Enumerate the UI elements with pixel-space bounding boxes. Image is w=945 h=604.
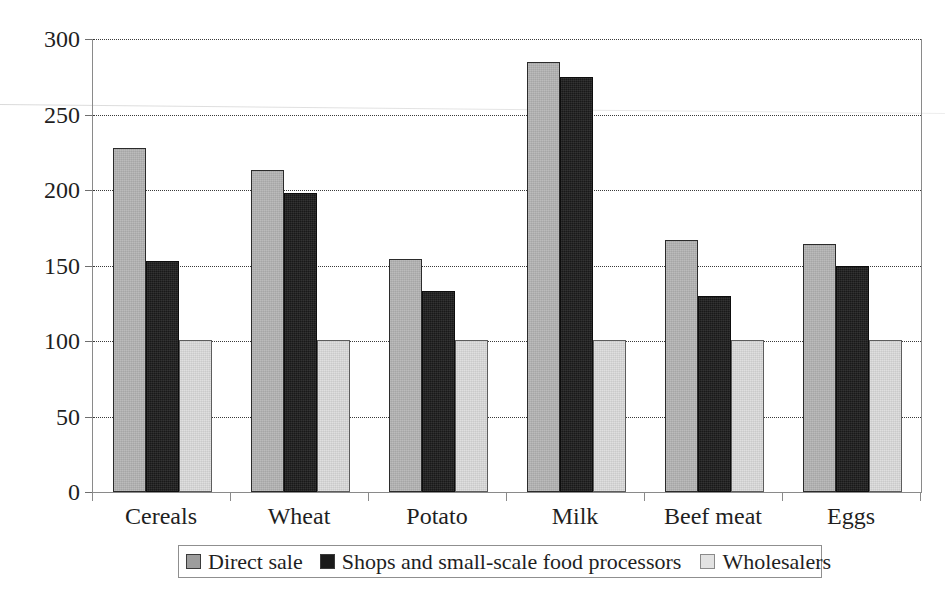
chart-legend: Direct saleShops and small-scale food pr… — [178, 545, 822, 578]
x-tick-1 — [230, 492, 231, 501]
bar-eggs-series-2 — [869, 340, 902, 493]
gridline-150 — [93, 266, 921, 267]
bar-milk-series-1 — [560, 77, 593, 492]
bar-group-potato — [389, 39, 488, 492]
x-tick-0 — [92, 492, 93, 501]
bar-group-beef-meat — [665, 39, 764, 492]
bar-beef-meat-series-0 — [665, 240, 698, 492]
bar-group-cereals — [113, 39, 212, 492]
bar-beef-meat-series-1 — [698, 296, 731, 492]
bar-group-eggs — [803, 39, 902, 492]
bar-cereals-series-2 — [179, 340, 212, 493]
bar-potato-series-0 — [389, 259, 422, 492]
legend-entry-2: Wholesalers — [700, 551, 831, 573]
gridline-300 — [93, 39, 921, 40]
x-tick-5 — [782, 492, 783, 501]
y-tick-label-0: 0 — [6, 480, 80, 504]
legend-label-2: Wholesalers — [722, 551, 831, 573]
gridline-0 — [93, 492, 921, 493]
x-tick-2 — [368, 492, 369, 501]
x-axis-label-wheat: Wheat — [268, 504, 331, 528]
plot-area — [92, 39, 922, 493]
x-axis-label-milk: Milk — [552, 504, 599, 528]
x-axis-label-eggs: Eggs — [827, 504, 875, 528]
y-tick-label-100: 100 — [6, 329, 80, 353]
bar-milk-series-2 — [593, 340, 626, 493]
bar-cereals-series-0 — [113, 148, 146, 492]
bar-cereals-series-1 — [146, 261, 179, 492]
x-tick-4 — [644, 492, 645, 501]
bar-eggs-series-1 — [836, 266, 869, 493]
bar-wheat-series-2 — [317, 340, 350, 493]
legend-swatch-icon-0 — [186, 554, 201, 569]
y-tick-label-150: 150 — [6, 254, 80, 278]
y-tick-label-250: 250 — [6, 103, 80, 127]
legend-swatch-icon-1 — [320, 554, 335, 569]
x-tick-3 — [506, 492, 507, 501]
y-tick-label-200: 200 — [6, 178, 80, 202]
bar-chart: 050100150200250300 CerealsWheatPotatoMil… — [0, 0, 945, 604]
x-tick-6 — [920, 492, 921, 501]
legend-swatch-icon-2 — [700, 554, 715, 569]
bar-group-milk — [527, 39, 626, 492]
gridline-200 — [93, 190, 921, 191]
gridline-250 — [93, 115, 921, 116]
legend-entry-1: Shops and small-scale food processors — [320, 551, 682, 573]
bar-beef-meat-series-2 — [731, 340, 764, 493]
bar-wheat-series-0 — [251, 170, 284, 492]
bar-group-wheat — [251, 39, 350, 492]
x-axis-label-potato: Potato — [406, 504, 467, 528]
x-axis-label-beef-meat: Beef meat — [664, 504, 762, 528]
bar-potato-series-2 — [455, 340, 488, 493]
y-tick-label-300: 300 — [6, 27, 80, 51]
bar-milk-series-0 — [527, 62, 560, 492]
legend-label-1: Shops and small-scale food processors — [342, 551, 682, 573]
legend-label-0: Direct sale — [208, 551, 303, 573]
bar-wheat-series-1 — [284, 193, 317, 492]
gridline-100 — [93, 341, 921, 342]
y-tick-label-50: 50 — [6, 405, 80, 429]
x-axis-label-cereals: Cereals — [125, 504, 197, 528]
legend-entry-0: Direct sale — [186, 551, 303, 573]
gridline-50 — [93, 417, 921, 418]
bar-potato-series-1 — [422, 291, 455, 492]
bar-eggs-series-0 — [803, 244, 836, 492]
